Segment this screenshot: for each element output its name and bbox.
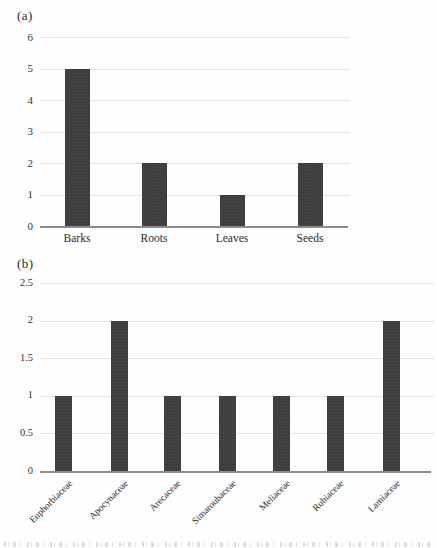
gridline-y-2.5 (40, 283, 434, 284)
bar-apocynaceae (111, 321, 128, 471)
gridline-y-1 (40, 396, 434, 397)
chart-b-plant-families-bar-chart: 00.511.522.5EuphorbiaceaeApocynaceaeArec… (0, 0, 437, 548)
x-tick-label: Euphorbiaceae (27, 478, 74, 525)
x-axis-line (40, 471, 431, 473)
x-tick-label: Meliaceae (257, 478, 292, 513)
bar-arecaceae (164, 396, 181, 471)
x-tick-label: Simaroubaceae (190, 478, 238, 526)
y-tick-label: 0 (0, 466, 33, 477)
y-tick-label: 2 (0, 315, 33, 326)
bar-meliaceae (273, 396, 290, 471)
bar-lamiaceae (383, 321, 400, 471)
gridline-y-2 (40, 321, 434, 322)
bar-euphorbiaceae (55, 396, 72, 471)
x-tick-label: Arecaceae (148, 478, 183, 513)
cropped-caption-remnant (4, 542, 432, 547)
y-tick-label: 1 (0, 390, 33, 401)
bar-rubiaceae (327, 396, 344, 471)
x-tick-label: Lamiaceae (366, 478, 402, 514)
x-tick-label: Rubiaceae (311, 478, 346, 513)
y-tick-label: 1.5 (0, 353, 33, 364)
bar-simaroubaceae (219, 396, 236, 471)
y-tick-label: 0.5 (0, 428, 33, 439)
gridline-y-1.5 (40, 358, 434, 359)
figure-page: (a) 0123456BarksRootsLeavesSeeds (b) 00.… (0, 0, 437, 548)
gridline-y-0.5 (40, 433, 434, 434)
x-tick-label: Apocynaceae (87, 478, 130, 521)
y-tick-label: 2.5 (0, 278, 33, 289)
